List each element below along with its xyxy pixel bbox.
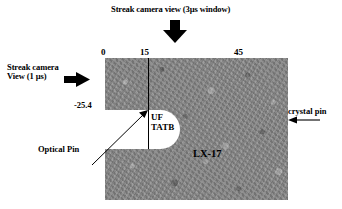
arrow-left-icon — [288, 117, 320, 124]
optical-pin-label: Optical Pin — [38, 145, 79, 154]
arrow-right-icon — [64, 72, 90, 87]
sample-material-label: LX-17 — [193, 148, 222, 159]
uf-tatb-label: UF TATB — [151, 113, 174, 132]
streak-camera-diagram: Streak camera view (3µs window) Streak c… — [0, 0, 342, 209]
axis-tick-45: 45 — [234, 48, 243, 58]
crystal-pin-label: crystal pin — [288, 107, 327, 116]
leader-line-arrow-icon — [92, 110, 148, 165]
diagram-title: Streak camera view (3µs window) — [111, 5, 230, 14]
uf-tatb-line-1: UF — [151, 112, 163, 122]
depth-dimension-label: -25.4 — [74, 101, 92, 110]
left-view-line-2: View (1 µs) — [7, 71, 46, 81]
axis-tick-15: 15 — [140, 48, 149, 58]
annotation-overlay — [0, 0, 342, 209]
uf-tatb-line-2: TATB — [151, 122, 174, 132]
arrow-down-icon — [163, 20, 187, 43]
left-streak-camera-view-label: Streak camera View (1 µs) — [7, 63, 59, 81]
axis-tick-0: 0 — [101, 48, 106, 58]
